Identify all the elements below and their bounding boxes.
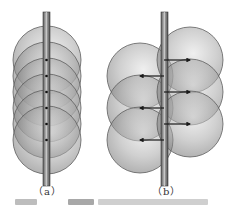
figure-caption-blurred xyxy=(0,196,237,207)
panel-b xyxy=(107,12,223,186)
center-dot xyxy=(45,139,48,142)
center-dot xyxy=(45,107,48,110)
center-dot xyxy=(45,91,48,94)
diagram-canvas xyxy=(0,0,237,207)
center-dot xyxy=(45,75,48,78)
center-dot xyxy=(45,59,48,62)
panel-a xyxy=(13,12,81,186)
center-dot xyxy=(45,123,48,126)
